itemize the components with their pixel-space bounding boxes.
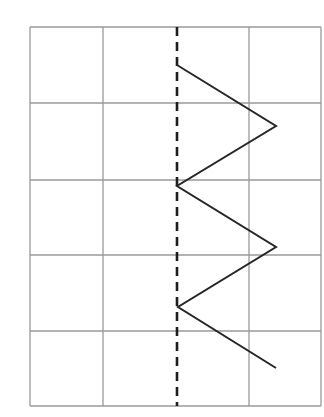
zigzag-shape-line xyxy=(177,65,276,368)
symmetry-diagram xyxy=(0,0,324,417)
grid xyxy=(30,27,321,406)
